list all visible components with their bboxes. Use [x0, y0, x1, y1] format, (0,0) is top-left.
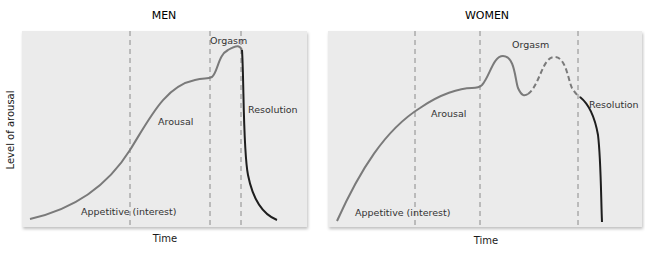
women-resolution-label: Resolution	[589, 99, 639, 110]
men-arousal-label: Arousal	[158, 116, 193, 127]
women-chart: WOMEN Orgasm Arousal Resolution Appetiti…	[328, 9, 642, 246]
women-x-axis-label: Time	[473, 235, 498, 246]
women-plot-area	[328, 31, 642, 227]
y-axis-label: Level of arousal	[5, 91, 16, 170]
men-orgasm-label: Orgasm	[210, 35, 247, 46]
men-appetitive-label: Appetitive (interest)	[81, 206, 176, 217]
men-plot-area	[22, 31, 307, 227]
chart-figure: MEN Orgasm Arousal Resolution Appetitive…	[0, 0, 645, 255]
women-arousal-label: Arousal	[431, 108, 466, 119]
men-chart: MEN Orgasm Arousal Resolution Appetitive…	[5, 9, 307, 244]
women-orgasm-label: Orgasm	[512, 39, 549, 50]
men-x-axis-label: Time	[152, 233, 177, 244]
women-title: WOMEN	[465, 9, 509, 22]
men-title: MEN	[152, 9, 177, 22]
women-appetitive-label: Appetitive (interest)	[355, 207, 450, 218]
men-resolution-label: Resolution	[248, 104, 298, 115]
